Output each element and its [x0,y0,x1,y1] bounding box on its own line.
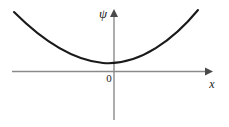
figure-container: ψ x 0 [0,0,229,127]
y-axis-arrow-icon [110,9,118,17]
x-axis-arrow-icon [205,68,213,76]
x-axis-label: x [208,77,215,91]
origin-label: 0 [106,72,112,84]
y-axis-label: ψ [99,6,108,21]
parabola-plot: ψ x 0 [0,0,229,127]
